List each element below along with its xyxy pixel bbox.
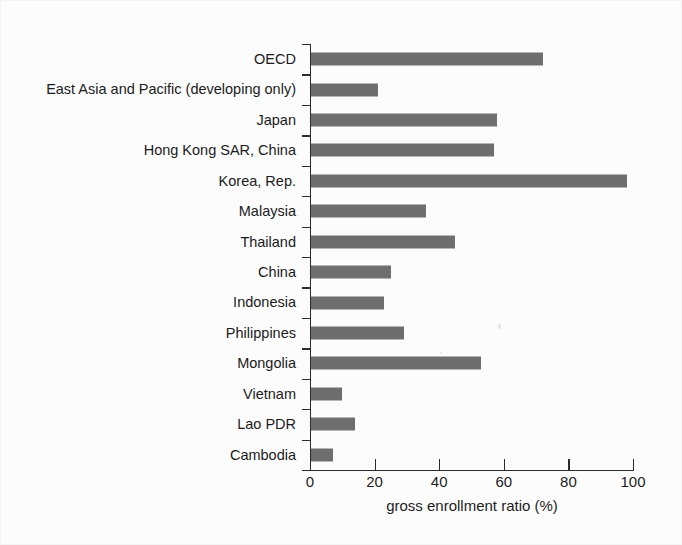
- bar-row: [310, 227, 633, 257]
- bar: [310, 418, 355, 431]
- x-axis-title: gross enrollment ratio (%): [310, 497, 634, 514]
- y-axis-tick: [302, 166, 310, 167]
- y-axis-tick: [302, 287, 310, 288]
- bar: [310, 53, 543, 66]
- x-axis-tick: [633, 459, 634, 470]
- category-label: Korea, Rep.: [219, 174, 296, 189]
- bar: [310, 448, 333, 461]
- x-axis-tick: [439, 459, 440, 470]
- y-axis-tick: [302, 105, 310, 106]
- y-axis-tick: [302, 74, 310, 75]
- bar: [310, 327, 404, 340]
- category-label: Vietnam: [243, 387, 296, 402]
- category-label-row: Lao PDR: [8, 409, 304, 439]
- bar-chart-figure: OECDEast Asia and Pacific (developing on…: [0, 0, 682, 545]
- category-label-row: Cambodia: [8, 440, 304, 470]
- category-label: Lao PDR: [237, 417, 296, 432]
- category-label: Malaysia: [239, 204, 296, 219]
- y-axis-tick: [302, 379, 310, 380]
- bar: [310, 266, 391, 279]
- category-label-row: East Asia and Pacific (developing only): [8, 74, 304, 104]
- x-axis-tick: [375, 459, 376, 470]
- y-axis-line: [310, 44, 311, 470]
- plot-area: OECDEast Asia and Pacific (developing on…: [0, 0, 682, 545]
- bar-row: [310, 348, 633, 378]
- bar: [310, 205, 426, 218]
- bar: [310, 114, 497, 127]
- y-axis-tick: [302, 44, 310, 45]
- category-label-row: Malaysia: [8, 196, 304, 226]
- x-axis-tick-label: 20: [366, 473, 383, 490]
- y-axis-tick: [302, 470, 310, 471]
- bar: [310, 174, 627, 187]
- bar: [310, 387, 342, 400]
- category-label-row: Japan: [8, 105, 304, 135]
- x-axis-tick: [310, 459, 311, 470]
- bar-row: [310, 196, 633, 226]
- category-label: Indonesia: [233, 295, 296, 310]
- category-label-row: Mongolia: [8, 348, 304, 378]
- bar-row: [310, 257, 633, 287]
- category-label: Mongolia: [237, 356, 296, 371]
- x-axis-tick-label: 60: [495, 473, 512, 490]
- bar-row: [310, 287, 633, 317]
- bar-row: [310, 440, 633, 470]
- scan-speckle: [440, 352, 442, 354]
- bar-row: [310, 135, 633, 165]
- bar-row: [310, 379, 633, 409]
- bar: [310, 296, 384, 309]
- x-axis-tick-label: 80: [560, 473, 577, 490]
- bar-row: [310, 74, 633, 104]
- category-label: East Asia and Pacific (developing only): [46, 82, 296, 97]
- x-axis-tick-label: 40: [431, 473, 448, 490]
- category-label-row: Indonesia: [8, 287, 304, 317]
- category-label: Japan: [256, 113, 296, 128]
- y-axis-tick: [302, 440, 310, 441]
- scan-speckle: [498, 324, 501, 329]
- category-axis-labels: OECDEast Asia and Pacific (developing on…: [8, 44, 304, 470]
- category-label: Hong Kong SAR, China: [144, 143, 296, 158]
- y-axis-tick: [302, 318, 310, 319]
- category-label-row: Thailand: [8, 227, 304, 257]
- category-label-row: Korea, Rep.: [8, 166, 304, 196]
- y-axis-tick: [302, 348, 310, 349]
- x-axis-line: [310, 470, 634, 471]
- bars-container: [310, 44, 633, 470]
- category-label-row: Philippines: [8, 318, 304, 348]
- y-axis-tick: [302, 135, 310, 136]
- x-axis-tick-label: 100: [620, 473, 645, 490]
- category-label: Cambodia: [230, 448, 296, 463]
- bar-row: [310, 318, 633, 348]
- bar-row: [310, 166, 633, 196]
- x-axis-tick: [568, 459, 569, 470]
- bar: [310, 83, 378, 96]
- y-axis-tick: [302, 409, 310, 410]
- category-label: Thailand: [240, 235, 296, 250]
- category-label: Philippines: [226, 326, 296, 341]
- category-label-row: Vietnam: [8, 379, 304, 409]
- y-axis-tick: [302, 257, 310, 258]
- category-label-row: OECD: [8, 44, 304, 74]
- bar-row: [310, 44, 633, 74]
- bar: [310, 144, 494, 157]
- bar-row: [310, 105, 633, 135]
- y-axis-tick: [302, 227, 310, 228]
- category-label-row: China: [8, 257, 304, 287]
- bar: [310, 357, 481, 370]
- y-axis-tick: [302, 196, 310, 197]
- bar-row: [310, 409, 633, 439]
- x-axis-tick-label: 0: [306, 473, 314, 490]
- category-label: China: [258, 265, 296, 280]
- category-label: OECD: [254, 52, 296, 67]
- bar: [310, 235, 455, 248]
- x-axis-tick: [504, 459, 505, 470]
- category-label-row: Hong Kong SAR, China: [8, 135, 304, 165]
